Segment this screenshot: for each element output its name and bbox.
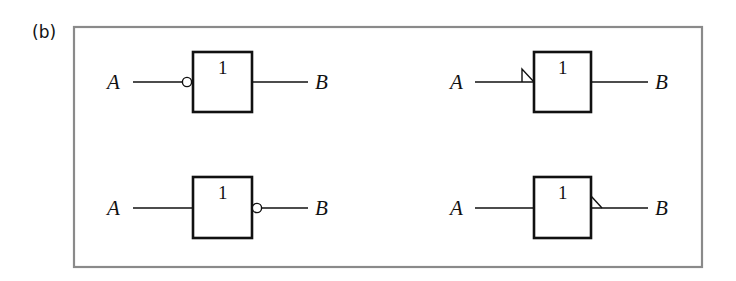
gate-bottom-left: A 1 B xyxy=(105,177,328,238)
gate-function-label: 1 xyxy=(558,182,568,203)
gate-top-right: A 1 B xyxy=(448,52,668,112)
output-label-b: B xyxy=(655,70,668,94)
input-label-a: A xyxy=(448,196,463,220)
gate-function-label: 1 xyxy=(218,182,228,203)
logic-diagram: A 1 B A 1 B A 1 B A 1 B xyxy=(0,0,736,281)
polarity-indicator-icon xyxy=(522,69,534,82)
negation-bubble-icon xyxy=(252,203,261,212)
output-label-b: B xyxy=(315,196,328,220)
gate-function-label: 1 xyxy=(558,57,568,78)
input-label-a: A xyxy=(105,70,120,94)
input-label-a: A xyxy=(105,196,120,220)
output-label-b: B xyxy=(655,196,668,220)
input-label-a: A xyxy=(448,70,463,94)
gate-function-label: 1 xyxy=(218,57,228,78)
figure-frame xyxy=(74,27,702,267)
output-label-b: B xyxy=(315,70,328,94)
polarity-indicator-icon xyxy=(591,196,602,208)
gate-top-left: A 1 B xyxy=(105,52,328,112)
negation-bubble-icon xyxy=(182,77,191,86)
gate-bottom-right: A 1 B xyxy=(448,177,668,238)
